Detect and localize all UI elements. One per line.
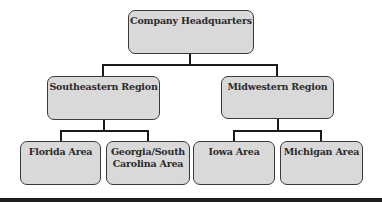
connector-iowa-drop	[233, 130, 235, 141]
node-southeastern-region: Southeastern Region	[47, 76, 160, 120]
node-label: Southeastern Region	[49, 81, 157, 92]
node-company-headquarters: Company Headquarters	[128, 10, 254, 54]
node-label: Midwestern Region	[227, 81, 327, 92]
connector-florida-drop	[60, 130, 62, 141]
node-florida-area: Florida Area	[20, 141, 101, 185]
node-label: Iowa Area	[208, 146, 259, 157]
node-label-line1: Georgia/South	[111, 146, 185, 157]
connector-southeastern-horizontal	[60, 130, 149, 132]
node-label: Florida Area	[29, 146, 93, 157]
node-michigan-area: Michigan Area	[280, 141, 363, 185]
node-midwestern-region: Midwestern Region	[221, 76, 334, 119]
node-iowa-area: Iowa Area	[193, 141, 275, 185]
node-label: Michigan Area	[284, 146, 359, 157]
connector-michigan-drop	[320, 130, 322, 141]
node-label-line2: Carolina Area	[113, 158, 184, 169]
connector-root-horizontal	[102, 64, 278, 66]
org-chart: Company Headquarters Southeastern Region…	[0, 0, 382, 202]
bottom-rule	[0, 198, 382, 202]
connector-midwestern-drop	[276, 64, 278, 76]
node-georgia-south-carolina-area: Georgia/South Carolina Area	[106, 141, 190, 185]
connector-georgia-drop	[147, 130, 149, 141]
connector-southeastern-drop	[102, 64, 104, 76]
connector-midwestern-horizontal	[233, 130, 322, 132]
node-label: Company Headquarters	[130, 15, 252, 26]
